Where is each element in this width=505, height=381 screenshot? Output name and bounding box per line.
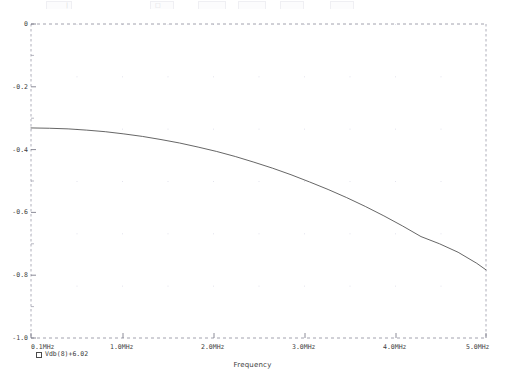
legend[interactable]: Vdb(8)+6.02 (36, 350, 88, 359)
x-tick-label-2: 2.0MHz (201, 343, 224, 351)
y-tick-label-3: -0.6 (4, 208, 28, 216)
y-tick-label-5: -1.0 (4, 334, 28, 342)
legend-square-marker (36, 352, 42, 358)
y-tick-label-2: -0.4 (4, 146, 28, 154)
x-tick-label-4: 4.0MHz (383, 343, 406, 351)
x-tick-label-1: 1.0MHz (110, 343, 133, 351)
waveform-plot[interactable]: 0 -0.2 -0.4 -0.6 -0.8 -1.0 0.1MHz 1.0MHz… (0, 0, 505, 381)
legend-label: Vdb(8)+6.02 (45, 350, 88, 359)
y-tick-label-4: -0.8 (4, 271, 28, 279)
x-tick-label-5: 5.0MHz (466, 343, 489, 351)
y-tick-label-0: 0 (4, 20, 28, 28)
plot-canvas (0, 0, 505, 381)
x-axis-title: Frequency (0, 361, 505, 370)
y-tick-label-1: -0.2 (4, 83, 28, 91)
grid-dots (31, 24, 486, 338)
x-tick-label-3: 3.0MHz (292, 343, 315, 351)
